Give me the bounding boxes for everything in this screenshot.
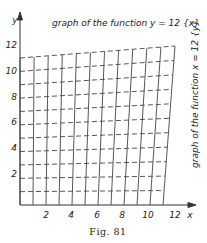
y-tick-10: 10 — [6, 66, 18, 76]
x-tick-2: 2 — [43, 210, 49, 220]
top-function-label: graph of the function y = 12 {x} — [52, 18, 200, 28]
x-axis-label: x — [186, 210, 193, 220]
vertical-solid-lines — [20, 46, 175, 205]
x-tick-10: 10 — [142, 210, 154, 220]
diagram: 2 4 6 8 10 12 x 2 4 6 8 10 12 y graph of… — [0, 0, 207, 243]
y-tick-12: 12 — [6, 40, 18, 50]
right-function-label: graph of the function x = 12 {y} — [190, 20, 200, 168]
horizontal-dashed-lines — [20, 46, 175, 192]
y-tick-2: 2 — [11, 169, 17, 179]
figure-caption: Fig. 81 — [89, 226, 126, 237]
x-tick-4: 4 — [68, 210, 74, 220]
y-tick-8: 8 — [11, 92, 17, 102]
y-axis-label: y — [11, 15, 18, 25]
x-tick-6: 6 — [94, 210, 100, 220]
x-tick-labels: 2 4 6 8 10 12 x — [43, 210, 193, 220]
y-tick-labels: 2 4 6 8 10 12 y — [6, 15, 19, 179]
x-tick-12: 12 — [169, 210, 181, 220]
y-tick-4: 4 — [11, 143, 17, 153]
x-tick-8: 8 — [119, 210, 125, 220]
y-tick-6: 6 — [11, 117, 17, 127]
